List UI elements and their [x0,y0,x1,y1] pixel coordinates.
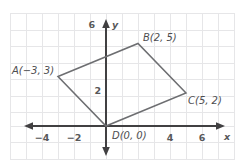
y-axis-label: y [112,20,118,30]
coordinate-plane-figure: 6 2 −4 −2 4 6 y x A(−3, 3) B(2, 5) C(5, … [0,0,243,166]
x-axis-arrow-left [24,122,33,130]
vertex-label-c: C(5, 2) [188,96,222,106]
y-axis-arrow-top [102,19,110,28]
y-axis [102,19,110,156]
x-axis-label: x [224,132,230,142]
x-tick-label-neg2: −2 [67,133,82,143]
vertex-label-b: B(2, 5) [143,33,177,43]
x-tick-label-4: 4 [167,133,174,143]
y-axis-arrow-bottom [102,147,110,156]
y-tick-label-6: 6 [88,20,95,30]
x-axis [24,122,225,130]
y-tick-label-2: 2 [94,86,101,96]
x-tick-label-6: 6 [199,133,206,143]
x-axis-arrow-right [216,122,225,130]
x-tick-label-neg4: −4 [35,133,50,143]
vertex-label-a: A(−3, 3) [12,66,54,76]
vertex-label-d: D(0, 0) [112,131,147,141]
